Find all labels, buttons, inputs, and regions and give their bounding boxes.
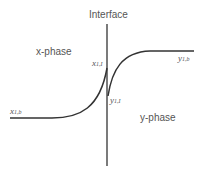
y-phase-label: y-phase [140, 112, 176, 123]
x-bulk-label: x1,b [10, 106, 22, 116]
x-interface-label: x1,I [92, 58, 103, 68]
x-phase-concentration-curve [10, 68, 107, 118]
interface-label: Interface [89, 9, 128, 20]
diagram-canvas [0, 0, 204, 173]
x-phase-label: x-phase [36, 46, 72, 57]
y-interface-label: y1,I [110, 95, 121, 105]
y-bulk-label: y1,b [178, 53, 190, 63]
